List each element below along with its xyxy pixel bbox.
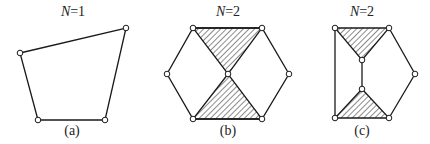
figure-a-title: N=1 xyxy=(61,4,85,20)
figure-b-caption: (b) xyxy=(220,123,236,139)
figure-b-title: N=2 xyxy=(216,4,240,20)
figure-c-title: N=2 xyxy=(350,4,374,20)
figure-a-quadrilateral xyxy=(20,28,126,120)
figure-c-caption: (c) xyxy=(354,123,370,139)
figure-a-caption: (a) xyxy=(64,123,80,139)
